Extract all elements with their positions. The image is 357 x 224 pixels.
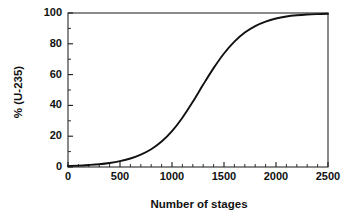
y-tick-label: 0 (56, 160, 62, 172)
y-tick-label: 80 (50, 37, 62, 49)
x-tick-label: 0 (65, 170, 71, 182)
x-tick-label: 2500 (316, 170, 340, 182)
y-tick-label: 60 (50, 68, 62, 80)
x-axis-title: Number of stages (150, 198, 247, 210)
y-tick-label: 40 (50, 98, 62, 110)
y-tick-label: 100 (44, 6, 62, 18)
x-tick-label: 500 (111, 170, 129, 182)
x-tick-label: 2000 (264, 170, 288, 182)
y-tick-label: 20 (50, 129, 62, 141)
y-axis-title: % (U-235) (12, 66, 24, 119)
x-tick-label: 1000 (160, 170, 184, 182)
chart-canvas: 05001000150020002500 020406080100 Number… (0, 0, 357, 224)
chart-figure: 05001000150020002500 020406080100 Number… (0, 0, 357, 224)
x-tick-label: 1500 (212, 170, 236, 182)
chart-background (0, 0, 357, 224)
